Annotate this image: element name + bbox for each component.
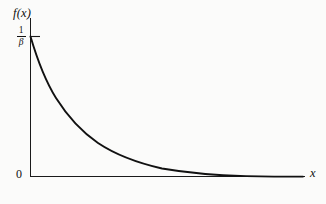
origin-label: 0 — [16, 168, 22, 180]
exponential-density-curve — [31, 37, 304, 177]
fraction-denominator: β — [17, 37, 26, 47]
exponential-distribution-figure: f(x) x 0 1 β — [0, 0, 326, 204]
fraction-numerator: 1 — [17, 26, 26, 36]
y-axis-tick-label: 1 β — [13, 26, 29, 48]
y-axis-label: f(x) — [13, 7, 31, 20]
fraction-one-over-beta: 1 β — [17, 26, 26, 47]
plot-area — [0, 0, 326, 204]
x-axis-label: x — [310, 167, 316, 180]
